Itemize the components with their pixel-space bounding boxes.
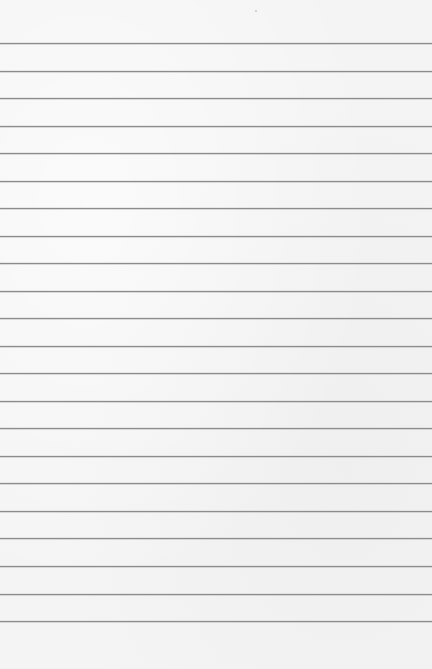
ruled-line xyxy=(0,208,432,209)
ruled-line xyxy=(0,621,432,622)
ruled-line xyxy=(0,126,432,127)
ruled-line xyxy=(0,483,432,484)
ruled-line xyxy=(0,538,432,539)
ruled-line xyxy=(0,373,432,374)
ruled-line xyxy=(0,566,432,567)
ruled-line xyxy=(0,456,432,457)
ruled-line xyxy=(0,98,432,99)
ruled-line xyxy=(0,236,432,237)
ruled-line xyxy=(0,594,432,595)
ruled-line xyxy=(0,181,432,182)
ruled-line xyxy=(0,511,432,512)
ruled-line xyxy=(0,291,432,292)
ruled-line xyxy=(0,401,432,402)
ruled-line xyxy=(0,71,432,72)
ruled-line xyxy=(0,153,432,154)
paper-speck xyxy=(255,10,257,12)
ruled-line xyxy=(0,346,432,347)
ruled-line xyxy=(0,428,432,429)
ruled-line xyxy=(0,263,432,264)
lined-paper xyxy=(0,0,432,669)
ruled-line xyxy=(0,43,432,44)
ruled-line xyxy=(0,318,432,319)
